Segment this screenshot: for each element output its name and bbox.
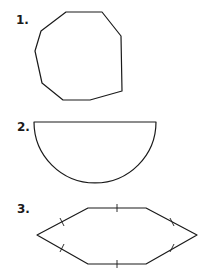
hexagon-shape xyxy=(37,204,197,268)
nonagon-shape xyxy=(35,12,122,100)
semicircle-shape xyxy=(34,122,156,183)
figures-canvas xyxy=(0,0,210,276)
